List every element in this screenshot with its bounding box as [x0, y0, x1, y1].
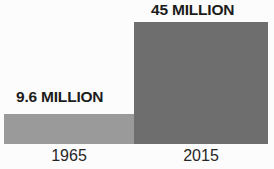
- value-label-2015: 45 MILLION: [151, 1, 234, 19]
- category-label-1965: 1965: [4, 147, 134, 165]
- bar-chart: 9.6 MILLION 45 MILLION 1965 2015: [0, 0, 274, 169]
- value-label-1965: 9.6 MILLION: [16, 88, 103, 106]
- bar-1965: [4, 114, 134, 144]
- plot-area: [0, 0, 274, 144]
- category-label-2015: 2015: [134, 147, 268, 165]
- bar-2015: [134, 22, 268, 144]
